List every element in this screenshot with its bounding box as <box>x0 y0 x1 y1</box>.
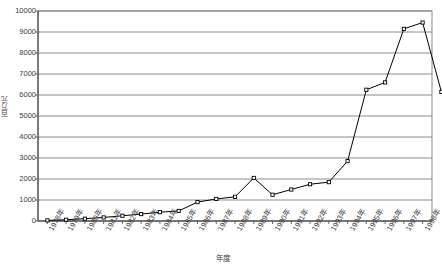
x-tick-label: 1979年 <box>64 206 85 232</box>
x-tick-label: 1998年 <box>421 206 442 232</box>
x-tick-label: 1989年 <box>252 206 273 232</box>
line-chart: 百万元 010002000300040005000600070008000900… <box>0 0 442 269</box>
x-tick-label: 1981年 <box>102 206 123 232</box>
x-axis-title: 年度 <box>216 252 230 263</box>
x-tick-label: 1986年 <box>195 206 216 232</box>
x-tick-label: 1996年 <box>383 206 404 232</box>
x-tick-label: 1983年 <box>139 206 160 232</box>
x-tick-label: 1984年 <box>158 206 179 232</box>
x-tick-label: 1992年 <box>308 206 329 232</box>
x-tick-label: 1978年 <box>45 206 66 232</box>
x-tick-label: 1987年 <box>214 206 235 232</box>
x-tick-label: 1985年 <box>177 206 198 232</box>
x-tick-label: 1990年 <box>271 206 292 232</box>
x-tick-label: 1980年 <box>83 206 104 232</box>
x-tick-label: 1982年 <box>120 206 141 232</box>
x-tick-label: 1991年 <box>289 206 310 232</box>
x-tick-label: 1988年 <box>233 206 254 232</box>
x-tick-label: 1997年 <box>402 206 423 232</box>
x-axis-tick-labels: 1978年1979年1980年1981年1982年1983年1984年1985年… <box>0 0 442 269</box>
x-tick-label: 1994年 <box>346 206 367 232</box>
x-tick-label: 1995年 <box>364 206 385 232</box>
x-tick-label: 1993年 <box>327 206 348 232</box>
